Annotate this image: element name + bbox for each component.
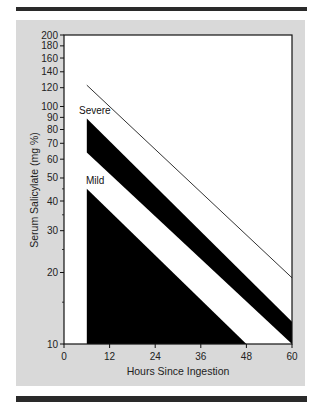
y-tick-label: 60 xyxy=(47,154,59,165)
y-tick-label: 90 xyxy=(47,112,59,123)
y-tick-label: 30 xyxy=(47,225,59,236)
y-tick-label: 20 xyxy=(47,267,59,278)
x-tick-label: 48 xyxy=(241,351,253,362)
severe-label: Severe xyxy=(79,105,111,116)
x-tick-label: 24 xyxy=(150,351,162,362)
x-tick-label: 0 xyxy=(61,351,67,362)
x-tick-label: 36 xyxy=(195,351,207,362)
y-tick-label: 140 xyxy=(41,66,58,77)
mild-label: Mild xyxy=(86,175,104,186)
y-axis-title: Serum Salicylate (mg %) xyxy=(28,132,40,248)
y-tick-label: 40 xyxy=(47,196,59,207)
y-tick-label: 100 xyxy=(41,101,58,112)
y-tick-label: 50 xyxy=(47,172,59,183)
y-tick-label: 80 xyxy=(47,124,59,135)
x-tick-label: 12 xyxy=(104,351,116,362)
x-axis: 01224364860 xyxy=(61,344,298,362)
y-tick-label: 10 xyxy=(47,339,59,350)
x-axis-title: Hours Since Ingestion xyxy=(127,365,230,377)
y-tick-label: 160 xyxy=(41,53,58,64)
y-tick-label: 200 xyxy=(41,30,58,41)
y-tick-label: 120 xyxy=(41,82,58,93)
y-tick-label: 180 xyxy=(41,40,58,51)
x-tick-label: 60 xyxy=(286,351,298,362)
y-axis: 200180160140120100908070605040302010 xyxy=(41,30,64,350)
y-tick-label: 70 xyxy=(47,138,59,149)
